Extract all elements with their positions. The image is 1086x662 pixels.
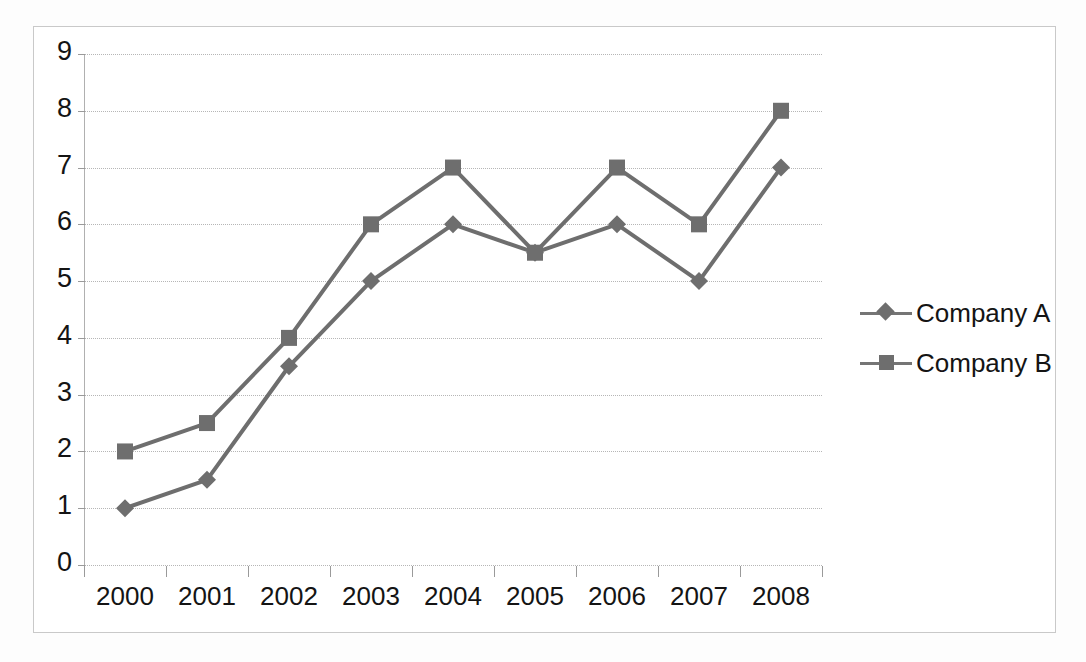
y-axis-tick [78, 111, 85, 112]
x-axis-tick-label: 2001 [161, 583, 253, 609]
chart-screenshot: 0123456789 20002001200220032004200520062… [0, 0, 1086, 662]
gridline [84, 281, 822, 282]
legend-item-company-a[interactable]: Company A [860, 288, 1050, 338]
y-axis-tick-label: 1 [28, 492, 72, 519]
gridline [84, 168, 822, 169]
y-axis-tick-label: 6 [28, 208, 72, 235]
y-axis-tick-label: 0 [28, 549, 72, 576]
x-axis-tick-label: 2000 [79, 583, 171, 609]
y-axis-line [84, 54, 85, 566]
y-axis-tick [78, 54, 85, 55]
x-axis-tick [822, 566, 823, 577]
y-axis-tick-label: 3 [28, 379, 72, 406]
legend-label-company-b: Company B [912, 348, 1052, 379]
x-axis-tick [84, 566, 85, 577]
diamond-marker-icon [860, 300, 912, 326]
y-axis-tick [78, 281, 85, 282]
gridline [84, 565, 822, 566]
y-axis-tick-label: 7 [28, 152, 72, 179]
y-axis-tick-label: 8 [28, 95, 72, 122]
x-axis-tick [576, 566, 577, 577]
x-axis-tick-label: 2002 [243, 583, 335, 609]
x-axis-tick [166, 566, 167, 577]
gridline [84, 111, 822, 112]
chart-legend: Company A Company B [860, 288, 1050, 388]
x-axis-tick-label: 2005 [489, 583, 581, 609]
x-axis-tick [494, 566, 495, 577]
x-axis-tick-label: 2008 [735, 583, 827, 609]
x-axis-tick-label: 2007 [653, 583, 745, 609]
x-axis-tick-label: 2003 [325, 583, 417, 609]
y-axis-tick-label: 2 [28, 435, 72, 462]
square-marker-icon [860, 350, 912, 376]
gridline [84, 224, 822, 225]
y-axis-tick-label: 4 [28, 322, 72, 349]
x-axis-tick [740, 566, 741, 577]
x-axis-tick [412, 566, 413, 577]
y-axis-tick [78, 168, 85, 169]
legend-label-company-a: Company A [912, 298, 1050, 329]
gridline [84, 508, 822, 509]
gridline [84, 338, 822, 339]
x-axis-tick [330, 566, 331, 577]
legend-item-company-b[interactable]: Company B [860, 338, 1050, 388]
y-axis-tick [78, 338, 85, 339]
y-axis-tick [78, 451, 85, 452]
gridline [84, 395, 822, 396]
x-axis-tick-label: 2006 [571, 583, 663, 609]
y-axis-tick-label: 5 [28, 265, 72, 292]
y-axis-tick-label: 9 [28, 38, 72, 65]
y-axis-tick [78, 508, 85, 509]
x-axis-tick-label: 2004 [407, 583, 499, 609]
gridline [84, 451, 822, 452]
y-axis-tick [78, 224, 85, 225]
x-axis-tick [658, 566, 659, 577]
y-axis-tick [78, 395, 85, 396]
x-axis-tick [248, 566, 249, 577]
gridline [84, 54, 822, 55]
